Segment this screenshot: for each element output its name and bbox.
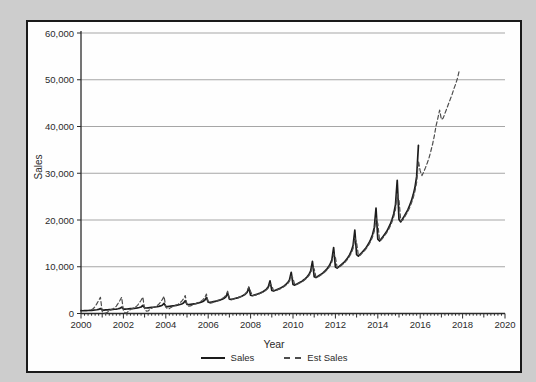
x-tick-label: 2000: [70, 319, 91, 330]
page-background: 010,00020,00030,00040,00050,00060,000200…: [0, 0, 536, 382]
y-tick-label: 0: [69, 308, 74, 319]
x-tick-label: 2010: [282, 319, 303, 330]
series-line-est-sales: [92, 71, 459, 313]
x-tick-label: 2018: [452, 319, 473, 330]
y-axis-ticks-and-labels: 010,00020,00030,00040,00050,00060,000: [45, 28, 81, 320]
y-tick-label: 50,000: [45, 74, 74, 85]
legend: Sales Est Sales: [26, 352, 522, 363]
solid-line-swatch: [201, 357, 225, 359]
series-line-sales: [81, 145, 418, 310]
gridlines: [81, 33, 505, 267]
x-tick-label: 2002: [113, 319, 134, 330]
legend-item-sales: Sales: [201, 352, 255, 363]
x-tick-label: 2012: [325, 319, 346, 330]
x-axis-title: Year: [26, 338, 522, 350]
x-tick-label: 2020: [494, 319, 515, 330]
x-tick-label: 2008: [240, 319, 261, 330]
x-tick-label: 2016: [410, 319, 431, 330]
x-axis-tick-labels: 2000200220042006200820102012201420162018…: [70, 319, 515, 330]
sales-line-chart: 010,00020,00030,00040,00050,00060,000200…: [0, 0, 536, 382]
y-axis-title: Sales: [33, 137, 47, 197]
y-tick-label: 60,000: [45, 28, 74, 39]
y-tick-label: 30,000: [45, 168, 74, 179]
y-tick-label: 10,000: [45, 261, 74, 272]
x-tick-label: 2014: [367, 319, 388, 330]
legend-label-sales: Sales: [231, 352, 255, 363]
legend-item-est-sales: Est Sales: [284, 352, 347, 363]
y-tick-label: 20,000: [45, 215, 74, 226]
x-tick-label: 2004: [155, 319, 176, 330]
legend-label-est-sales: Est Sales: [307, 352, 347, 363]
axes: [81, 31, 505, 314]
x-tick-label: 2006: [198, 319, 219, 330]
dashed-line-swatch: [284, 357, 301, 359]
y-tick-label: 40,000: [45, 121, 74, 132]
